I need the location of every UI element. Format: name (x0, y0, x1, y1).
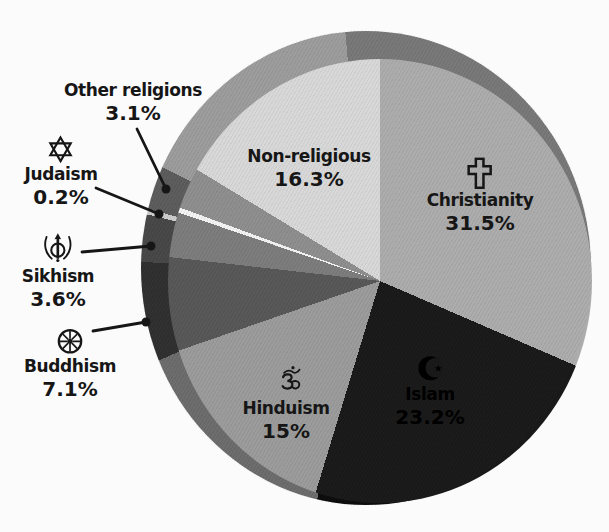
star-and-crescent-icon (418, 353, 442, 383)
sikhism-value: 3.6% (30, 288, 85, 310)
christianity-label: Christianity (427, 191, 534, 210)
om-icon (277, 365, 307, 397)
star-of-david-icon (47, 135, 75, 163)
judaism-label: Judaism (25, 165, 98, 184)
hinduism-value: 15% (262, 420, 310, 442)
other-religions-value: 3.1% (105, 102, 160, 124)
buddhism-value: 7.1% (42, 378, 97, 400)
non-religious-label: Non-religious (247, 147, 370, 166)
label-buddhism: Buddhism 7.1% (24, 327, 116, 400)
buddhism-label: Buddhism (24, 357, 116, 376)
pie-main-layer (168, 59, 592, 503)
christian-cross-icon (467, 157, 493, 189)
dharma-wheel-icon (56, 327, 84, 355)
label-judaism: Judaism 0.2% (25, 135, 98, 208)
label-non-religious: Non-religious 16.3% (247, 147, 370, 190)
label-sikhism: Sikhism 3.6% (22, 231, 94, 310)
christianity-value: 31.5% (445, 212, 514, 234)
label-hinduism: Hinduism 15% (243, 365, 330, 442)
label-christianity: Christianity 31.5% (427, 157, 534, 234)
other-religions-label: Other religions (64, 81, 202, 100)
sikhism-label: Sikhism (22, 267, 94, 286)
judaism-value: 0.2% (33, 186, 88, 208)
label-islam: Islam 23.2% (395, 353, 464, 428)
world-religions-pie-chart: Other religions 3.1% Judaism 0.2% Sikhis… (0, 0, 609, 532)
islam-value: 23.2% (395, 406, 464, 428)
label-other-religions: Other religions 3.1% (64, 81, 202, 124)
khanda-icon (42, 231, 74, 265)
islam-label: Islam (405, 385, 454, 404)
hinduism-label: Hinduism (243, 399, 330, 418)
non-religious-value: 16.3% (274, 168, 343, 190)
